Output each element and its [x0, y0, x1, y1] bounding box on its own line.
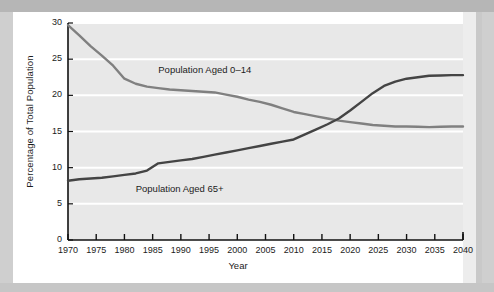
- page-margin-top: [0, 0, 494, 12]
- y-tick-label: 30: [42, 17, 62, 27]
- y-tick-label: 0: [42, 234, 62, 244]
- screenshot-root: Percentage of Total Population Year 1970…: [0, 0, 494, 292]
- y-tick-label: 25: [42, 53, 62, 63]
- y-tick-label: 15: [42, 126, 62, 136]
- line-chart: [13, 12, 476, 283]
- page-margin-left: [0, 0, 13, 292]
- y-tick-label: 10: [42, 162, 62, 172]
- x-axis-title: Year: [13, 260, 463, 271]
- x-tick-label: 2040: [446, 245, 480, 255]
- y-axis-title: Percentage of Total Population: [24, 27, 35, 217]
- y-tick-label: 5: [42, 198, 62, 208]
- y-tick-label: 20: [42, 89, 62, 99]
- chart-figure: Percentage of Total Population Year 1970…: [13, 12, 476, 283]
- series-annotation: Population Aged 0–14: [158, 64, 251, 75]
- page-margin-bottom: [0, 283, 494, 292]
- series-annotation: Population Aged 65+: [136, 183, 224, 194]
- page-margin-right: [482, 0, 494, 292]
